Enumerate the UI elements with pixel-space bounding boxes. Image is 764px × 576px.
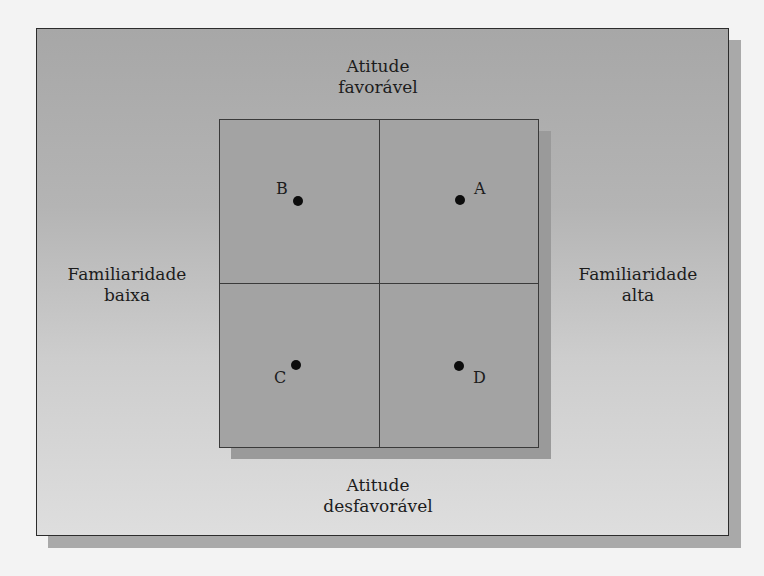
point-d-label: D	[473, 370, 486, 386]
point-c-label: C	[274, 370, 286, 386]
axis-label-top: Atitude favorável	[288, 56, 468, 98]
axis-label-right-line1: Familiaridade	[548, 264, 728, 285]
axis-label-top-line2: favorável	[288, 77, 468, 98]
point-a-dot	[455, 195, 465, 205]
axis-label-bottom-line2: desfavorável	[288, 496, 468, 517]
point-b-label: B	[276, 181, 288, 197]
axis-label-left: Familiaridade baixa	[37, 264, 217, 306]
quadrant-square	[219, 119, 539, 448]
point-d-dot	[454, 361, 464, 371]
figure-canvas: Atitude favorável Atitude desfavorável F…	[0, 0, 764, 576]
axis-label-left-line1: Familiaridade	[37, 264, 217, 285]
axis-label-right: Familiaridade alta	[548, 264, 728, 306]
axis-label-top-line1: Atitude	[288, 56, 468, 77]
point-a-label: A	[474, 181, 486, 197]
point-c-dot	[291, 360, 301, 370]
point-b-dot	[293, 196, 303, 206]
axis-label-bottom: Atitude desfavorável	[288, 475, 468, 517]
axis-label-bottom-line1: Atitude	[288, 475, 468, 496]
horizontal-divider	[220, 283, 538, 284]
axis-label-right-line2: alta	[548, 285, 728, 306]
axis-label-left-line2: baixa	[37, 285, 217, 306]
